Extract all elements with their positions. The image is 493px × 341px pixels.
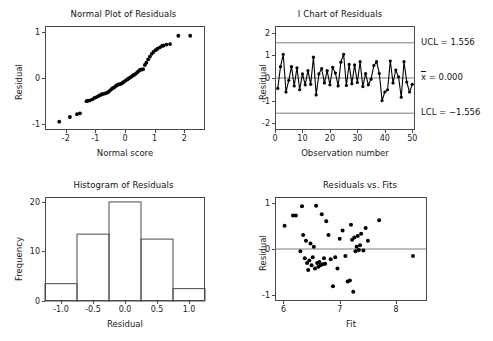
x-tick-mark xyxy=(157,301,158,304)
data-point xyxy=(320,67,323,70)
x-tick-label: 7 xyxy=(337,305,342,314)
x-tick-mark xyxy=(357,130,358,133)
x-tick-mark xyxy=(385,130,386,133)
y-tick-mark xyxy=(42,301,45,302)
x-tick-mark xyxy=(330,130,331,133)
data-point xyxy=(348,63,351,66)
data-point xyxy=(312,56,315,59)
data-point xyxy=(304,83,307,86)
data-point xyxy=(334,71,337,74)
data-point xyxy=(304,239,308,243)
x-tick-label: 6 xyxy=(281,305,286,314)
data-point xyxy=(303,256,307,260)
normal-plot-x-axis-label: Normal score xyxy=(45,148,205,158)
data-point xyxy=(314,204,318,208)
x-tick-label: 40 xyxy=(380,134,390,143)
y-tick-label: 1 xyxy=(249,51,270,60)
y-tick-mark xyxy=(272,203,275,204)
x-tick-label: 50 xyxy=(407,134,417,143)
y-tick-mark xyxy=(42,32,45,33)
y-tick-mark xyxy=(42,202,45,203)
y-tick-label: 10 xyxy=(19,247,40,256)
data-point xyxy=(353,63,356,66)
y-tick-label: -1 xyxy=(249,291,270,300)
x-tick-mark xyxy=(95,130,96,133)
data-point xyxy=(326,233,330,237)
data-point xyxy=(309,83,312,86)
x-tick-label: 20 xyxy=(325,134,335,143)
data-point xyxy=(295,66,298,69)
data-point xyxy=(361,248,365,252)
x-tick-mark xyxy=(61,301,62,304)
x-tick-mark xyxy=(283,301,284,304)
data-point xyxy=(394,68,397,71)
data-point xyxy=(331,284,335,288)
data-point xyxy=(359,60,362,63)
data-point xyxy=(310,263,314,267)
histogram-bar xyxy=(173,289,205,301)
i-chart-x-axis-label: Observation number xyxy=(275,148,415,158)
x-tick-mark xyxy=(125,301,126,304)
x-tick-label: 0.0 xyxy=(119,305,132,314)
data-point xyxy=(372,64,375,67)
data-point xyxy=(313,267,317,271)
x-tick-label: 30 xyxy=(352,134,362,143)
residual-diagnostics-figure: Normal Plot of Residuals Residual Normal… xyxy=(0,0,493,341)
x-tick-mark xyxy=(189,301,190,304)
data-point xyxy=(168,42,172,46)
x-tick-label: 1.0 xyxy=(183,305,196,314)
histogram-bar xyxy=(45,284,77,301)
data-point xyxy=(383,90,386,93)
data-point xyxy=(397,75,400,78)
panel-normal-plot: Normal Plot of Residuals Residual Normal… xyxy=(0,0,247,171)
data-point xyxy=(338,237,342,241)
y-tick-mark xyxy=(272,55,275,56)
data-point xyxy=(364,226,368,230)
data-point xyxy=(400,96,403,99)
data-point xyxy=(345,84,348,87)
data-point xyxy=(78,111,82,115)
x-tick-mark xyxy=(275,130,276,133)
data-point xyxy=(361,85,364,88)
data-point xyxy=(375,60,378,63)
data-point xyxy=(337,84,340,87)
data-point xyxy=(328,83,331,86)
data-point xyxy=(290,65,293,68)
data-point xyxy=(307,259,311,263)
data-point xyxy=(311,255,315,259)
data-point xyxy=(287,79,290,82)
data-point xyxy=(141,67,145,71)
data-point xyxy=(380,99,383,102)
data-point xyxy=(408,90,411,93)
data-point xyxy=(301,72,304,75)
data-point xyxy=(294,214,298,218)
data-point xyxy=(402,60,405,63)
data-point xyxy=(405,80,408,83)
i-chart-canvas xyxy=(275,26,415,130)
data-point xyxy=(348,279,352,283)
y-tick-label: -1 xyxy=(249,96,270,105)
data-point xyxy=(165,43,169,47)
data-point xyxy=(144,61,148,65)
histogram-bar xyxy=(77,234,109,301)
y-tick-label: 0 xyxy=(249,245,270,254)
histogram-title: Histogram of Residuals xyxy=(0,180,247,190)
data-point xyxy=(367,83,370,86)
y-tick-label: 0 xyxy=(249,74,270,83)
data-point xyxy=(341,228,345,232)
data-point xyxy=(411,254,415,258)
x-tick-label: 0.5 xyxy=(151,305,164,314)
data-point xyxy=(350,82,353,85)
panel-resid-vs-fits: Residuals vs. Fits Residual Fit 678-101 xyxy=(247,171,493,341)
data-point xyxy=(283,224,287,228)
data-point xyxy=(317,72,320,75)
data-point xyxy=(356,234,360,238)
data-point xyxy=(386,88,389,91)
x-tick-mark xyxy=(396,301,397,304)
data-point xyxy=(356,81,359,84)
data-point xyxy=(333,255,337,259)
x-tick-mark xyxy=(302,130,303,133)
normal-plot-canvas xyxy=(45,26,205,130)
y-tick-label: 20 xyxy=(19,197,40,206)
ucl-label: UCL = 1.556 xyxy=(421,37,475,47)
